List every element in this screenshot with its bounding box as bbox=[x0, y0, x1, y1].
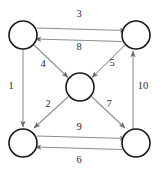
node-bottom-right[interactable] bbox=[122, 129, 150, 157]
edge-label-5: 5 bbox=[109, 58, 114, 69]
edge-label-2: 2 bbox=[45, 99, 50, 110]
node-top-left[interactable] bbox=[9, 21, 37, 49]
edge-label-3: 3 bbox=[76, 9, 81, 20]
edge-9-line bbox=[37, 136, 126, 139]
edge-label-7: 7 bbox=[106, 99, 111, 110]
edge-3-line bbox=[37, 28, 126, 31]
edge-label-9: 9 bbox=[76, 122, 81, 133]
edge-4-line bbox=[34, 45, 69, 78]
edge-label-1: 1 bbox=[8, 81, 13, 92]
edge-label-4: 4 bbox=[40, 59, 45, 70]
edge-label-6: 6 bbox=[76, 155, 81, 166]
edge-label-10: 10 bbox=[138, 81, 149, 92]
edge-2-line bbox=[34, 97, 69, 129]
node-top-right[interactable] bbox=[122, 21, 150, 49]
node-bottom-left[interactable] bbox=[9, 129, 37, 157]
edge-6-line bbox=[35, 147, 122, 150]
edge-label-8: 8 bbox=[76, 42, 81, 53]
graph-diagram: 1 2 3 4 5 6 7 8 9 10 bbox=[0, 0, 161, 170]
node-center[interactable] bbox=[66, 73, 94, 101]
